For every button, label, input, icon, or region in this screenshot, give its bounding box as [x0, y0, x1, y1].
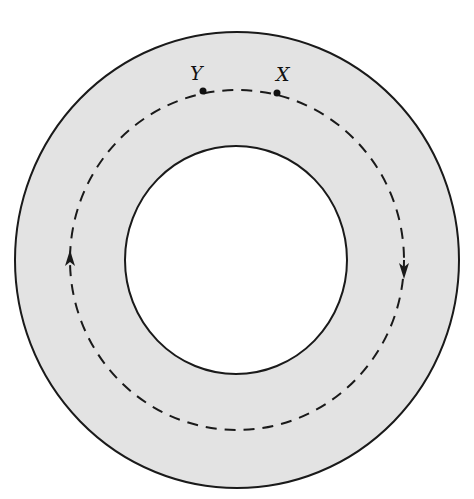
label-x: X [274, 63, 291, 85]
inner-circle [125, 146, 347, 374]
annulus-diagram: Y X [0, 0, 474, 499]
point-y [200, 88, 207, 95]
point-x [274, 90, 281, 97]
